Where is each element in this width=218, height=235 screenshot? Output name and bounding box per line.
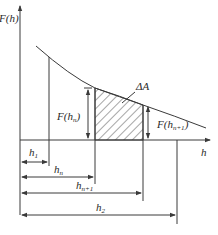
delta-a-label: ΔA [135, 80, 149, 92]
f-hn1-label: F(hn+1) [156, 118, 189, 132]
x-axis-label: h [201, 146, 207, 158]
h2-label: h2 [96, 201, 106, 215]
f-hn-label: F(hn) [56, 110, 80, 124]
area-integration-diagram: F(h) h ΔA F(hn) F(hn+1) h1 hn hn+1 h2 [0, 0, 218, 235]
delta-a-hatched-area [95, 88, 143, 140]
hn-label: hn [54, 163, 64, 177]
y-axis-label: F(h) [0, 12, 19, 25]
h1-label: h1 [29, 146, 38, 160]
hn1-label: hn+1 [76, 179, 93, 193]
